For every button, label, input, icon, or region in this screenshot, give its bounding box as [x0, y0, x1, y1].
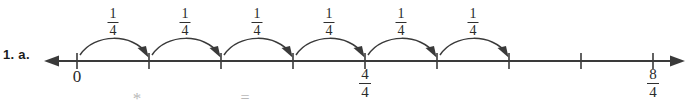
tick-label-fraction: 44: [359, 67, 371, 101]
hop-arcs-group: [80, 38, 509, 57]
cutoff-glyph: *: [133, 90, 142, 106]
cutoff-glyph: =: [240, 90, 249, 106]
hop-label-fraction: 14: [324, 7, 335, 39]
hop-label-fraction: 14: [468, 7, 479, 39]
arrow-left-icon: [44, 56, 59, 67]
fraction-denominator: 4: [324, 24, 335, 38]
hop-arrowhead-icon: [354, 46, 365, 58]
fraction-denominator: 4: [359, 85, 371, 100]
fraction-denominator: 4: [468, 24, 479, 38]
hop-arc: [80, 38, 147, 55]
fraction-numerator: 4: [359, 67, 371, 82]
hop-arc: [296, 38, 363, 55]
fraction-numerator: 1: [468, 7, 479, 21]
fraction-denominator: 4: [108, 24, 119, 38]
fraction-numerator: 1: [252, 7, 263, 21]
fraction-numerator: 8: [647, 67, 659, 82]
fraction-denominator: 4: [647, 85, 659, 100]
fraction-denominator: 4: [180, 24, 191, 38]
fraction-denominator: 4: [252, 24, 263, 38]
hop-arrowhead-icon: [210, 46, 221, 58]
hop-arrowhead-icon: [138, 46, 149, 58]
number-line-graphic: [0, 0, 688, 106]
hop-arc: [440, 38, 507, 55]
hop-arc: [224, 38, 291, 55]
worksheet-number-line-figure: 1. a. 04484 141414141414 *=: [0, 0, 688, 106]
fraction-numerator: 1: [180, 7, 191, 21]
hop-arc: [152, 38, 219, 55]
fraction-numerator: 1: [324, 7, 335, 21]
tick-label-whole: 0: [73, 68, 82, 85]
hop-arrowhead-icon: [426, 46, 437, 58]
hop-arrowhead-icon: [282, 46, 293, 58]
fraction-numerator: 1: [396, 7, 407, 21]
hop-label-fraction: 14: [108, 7, 119, 39]
hop-arrowhead-icon: [498, 46, 509, 58]
tick-label-fraction: 84: [647, 67, 659, 101]
fraction-denominator: 4: [396, 24, 407, 38]
hop-label-fraction: 14: [396, 7, 407, 39]
hop-label-fraction: 14: [252, 7, 263, 39]
hop-label-fraction: 14: [180, 7, 191, 39]
fraction-numerator: 1: [108, 7, 119, 21]
hop-arc: [368, 38, 435, 55]
arrow-right-icon: [670, 56, 685, 67]
